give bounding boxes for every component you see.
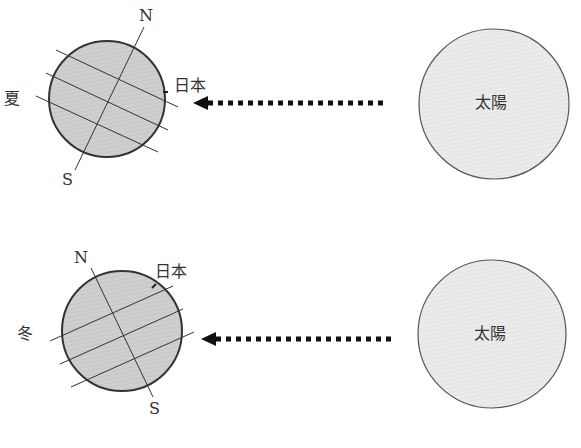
- winter-earth: [50, 268, 194, 397]
- winter-south-label: S: [149, 401, 160, 417]
- summer-north-label: N: [139, 8, 153, 24]
- winter-japan-label: 日本: [155, 264, 187, 280]
- diagram-canvas: [0, 0, 581, 448]
- winter-sunlight-arrow: [201, 332, 396, 346]
- winter-north-label: N: [74, 250, 88, 266]
- summer-sunlight-arrow: [193, 96, 388, 110]
- summer-sun-label: 太陽: [475, 95, 507, 111]
- winter-sun-label: 太陽: [474, 326, 506, 342]
- summer-earth: [36, 27, 178, 170]
- summer-south-label: S: [62, 172, 73, 188]
- summer-japan-label: 日本: [174, 78, 206, 94]
- winter-season-label: 冬: [17, 326, 33, 342]
- summer-season-label: 夏: [4, 91, 20, 107]
